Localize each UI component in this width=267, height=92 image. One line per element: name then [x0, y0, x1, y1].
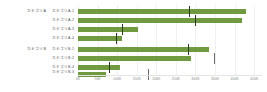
- target-marker-カテゴリB-1: [188, 44, 189, 55]
- bar-row[interactable]: [78, 65, 262, 70]
- x-axis: 0K50K100K150K200K250K300K350K400K450K: [78, 77, 262, 87]
- bar-row[interactable]: [78, 18, 262, 23]
- bar-row[interactable]: [78, 36, 262, 41]
- bar-カテゴリA-1[interactable]: [78, 9, 246, 14]
- row-label-b-2: カテゴリB-2: [40, 56, 74, 60]
- row-label-b-3: カテゴリB-3: [40, 70, 74, 74]
- target-marker-カテゴリA-2: [195, 15, 196, 26]
- bar-カテゴリA-2[interactable]: [78, 18, 242, 23]
- bar-row[interactable]: [78, 9, 262, 14]
- row-label-a-1: カテゴリA-1: [40, 9, 74, 13]
- bar-カテゴリB-2[interactable]: [78, 56, 191, 61]
- x-tick-0K: 0K: [76, 77, 80, 82]
- x-tick-300K: 300K: [191, 77, 199, 82]
- row-label-b-1: カテゴリB-1: [40, 47, 74, 51]
- x-tick-50K: 50K: [94, 77, 100, 82]
- x-tick-400K: 400K: [231, 77, 239, 82]
- row-label-b-4: カテゴリB-4: [40, 65, 74, 69]
- target-marker-カテゴリA-3: [122, 24, 123, 35]
- x-tick-450K: 450K: [250, 77, 258, 82]
- x-tick-150K: 150K: [133, 77, 141, 82]
- row-label-a-4: カテゴリA-4: [40, 36, 74, 40]
- axis-baseline: [78, 75, 262, 76]
- target-marker-カテゴリA-4: [116, 33, 117, 44]
- row-label-a-3: カテゴリA-3: [40, 27, 74, 31]
- x-tick-250K: 250K: [172, 77, 180, 82]
- bar-カテゴリB-1[interactable]: [78, 47, 209, 52]
- bar-row[interactable]: [78, 27, 262, 32]
- bar-カテゴリA-4[interactable]: [78, 36, 122, 41]
- target-marker-カテゴリA-1: [189, 6, 190, 17]
- row-label-a-2: カテゴリA-2: [40, 18, 74, 22]
- x-tick-350K: 350K: [211, 77, 219, 82]
- bar-row[interactable]: [78, 47, 262, 52]
- bar-カテゴリA-3[interactable]: [78, 27, 138, 32]
- bar-row[interactable]: [78, 56, 262, 61]
- plot-area: [78, 5, 262, 75]
- target-marker-カテゴリB-2: [214, 53, 215, 64]
- bullet-bar-chart: カテゴリA カテゴリB カテゴリA-1 カテゴリA-2 カテゴリA-3 カテゴリ…: [0, 0, 267, 92]
- x-tick-100K: 100K: [113, 77, 121, 82]
- bar-カテゴリB-4[interactable]: [78, 65, 120, 70]
- x-tick-200K: 200K: [152, 77, 160, 82]
